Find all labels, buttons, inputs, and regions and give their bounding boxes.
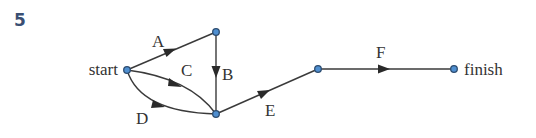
node-label-finish: finish bbox=[464, 60, 503, 79]
node-label-start: start bbox=[89, 60, 119, 79]
node-4 bbox=[315, 66, 322, 73]
edge-label-e: E bbox=[265, 101, 275, 120]
edge-c: C bbox=[127, 61, 216, 114]
edge-label-f: F bbox=[376, 43, 385, 62]
node-start bbox=[124, 67, 131, 74]
edge-b: B bbox=[212, 32, 234, 114]
edge-f: F bbox=[318, 43, 454, 74]
arrow-icon bbox=[212, 66, 221, 78]
node-finish bbox=[451, 66, 458, 73]
arrow-icon bbox=[378, 65, 390, 74]
edge-label-d: D bbox=[136, 109, 148, 128]
node-2 bbox=[213, 29, 220, 36]
arrow-icon bbox=[257, 90, 270, 99]
arrow-icon bbox=[168, 78, 182, 87]
activity-network-diagram: A B C D E F start finish bbox=[0, 0, 536, 138]
edge-label-a: A bbox=[152, 32, 165, 51]
edge-label-c: C bbox=[181, 61, 192, 80]
arrow-icon bbox=[151, 100, 165, 108]
edge-label-b: B bbox=[222, 65, 233, 84]
edge-a: A bbox=[127, 32, 216, 70]
node-3 bbox=[213, 111, 220, 118]
arrow-icon bbox=[163, 49, 176, 58]
